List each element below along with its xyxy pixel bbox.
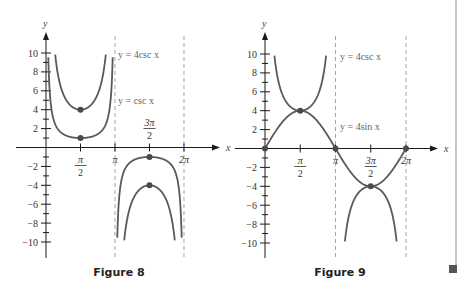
key-point <box>77 107 83 113</box>
x-tick-label: 2π <box>401 155 412 166</box>
y-tick-label: −4 <box>27 180 38 191</box>
key-point <box>146 182 152 188</box>
curve-label: y = 4sin x <box>340 121 380 132</box>
y-tick-label: −4 <box>246 181 257 192</box>
y-tick-label: −6 <box>27 199 38 210</box>
y-tick-label: −6 <box>246 200 257 211</box>
y-tick-label: 8 <box>252 67 257 78</box>
y-tick-label: 2 <box>33 123 38 134</box>
y-tick-label: 6 <box>252 86 257 97</box>
key-point <box>262 146 268 152</box>
x-tick-label-numerator: 3π <box>143 117 155 128</box>
y-tick-label: 4 <box>33 104 38 115</box>
y-tick-label: 10 <box>28 48 38 59</box>
x-tick-label-numerator: π <box>78 154 84 165</box>
y-tick-label: 4 <box>252 105 257 116</box>
x-tick-label-denominator: 2 <box>78 167 83 178</box>
curve-label: y = 4csc x <box>118 49 159 60</box>
curve-4csc <box>274 56 326 111</box>
x-tick-label-denominator: 2 <box>298 168 303 179</box>
figure-8-chart: xy108642−2−4−6−8−10π2π3π22πy = 4csc xy =… <box>16 18 231 279</box>
y-axis-arrow-icon <box>262 32 268 40</box>
key-point <box>146 154 152 160</box>
key-point <box>77 135 83 141</box>
curve-4csc <box>345 186 397 241</box>
y-axis-arrow-icon <box>43 32 49 40</box>
figure-9-chart: xy108642−2−4−6−8−10π2π3π22πy = 4csc xy =… <box>235 18 449 279</box>
figure-caption: Figure 8 <box>93 266 144 279</box>
key-point <box>403 146 409 152</box>
y-tick-label: 10 <box>247 49 257 60</box>
x-axis-label: x <box>443 143 449 154</box>
curve-4csc <box>55 55 106 110</box>
figure-caption: Figure 9 <box>314 266 365 279</box>
y-tick-label: 8 <box>33 66 38 77</box>
y-axis-label: y <box>261 18 267 29</box>
end-of-section-marker <box>449 265 457 273</box>
key-point <box>297 108 303 114</box>
y-tick-label: −2 <box>246 162 257 173</box>
y-axis-label: y <box>42 18 48 29</box>
x-tick-label-denominator: 2 <box>368 168 373 179</box>
curve-label: y = 4csc x <box>340 51 381 62</box>
x-tick-label-numerator: π <box>298 155 304 166</box>
curve-4csc <box>124 185 175 240</box>
x-axis-arrow-icon <box>212 145 220 151</box>
x-tick-label: π <box>112 154 118 165</box>
y-tick-label: −10 <box>241 238 257 249</box>
key-point <box>332 146 338 152</box>
curve-label: y = csc x <box>118 95 154 106</box>
y-tick-label: −10 <box>22 237 38 248</box>
x-tick-label: 2π <box>179 154 190 165</box>
x-tick-label-numerator: 3π <box>365 155 377 166</box>
figure-canvas: xy108642−2−4−6−8−10π2π3π22πy = 4csc xy =… <box>0 0 467 287</box>
x-axis-arrow-icon <box>430 146 438 152</box>
y-tick-label: 2 <box>252 124 257 135</box>
key-point <box>368 183 374 189</box>
y-tick-label: 6 <box>33 85 38 96</box>
y-tick-label: −2 <box>27 161 38 172</box>
x-tick-label-denominator: 2 <box>147 130 152 141</box>
x-tick-label: π <box>333 155 339 166</box>
y-tick-label: −8 <box>27 218 38 229</box>
x-axis-label: x <box>225 142 231 153</box>
y-tick-label: −8 <box>246 219 257 230</box>
